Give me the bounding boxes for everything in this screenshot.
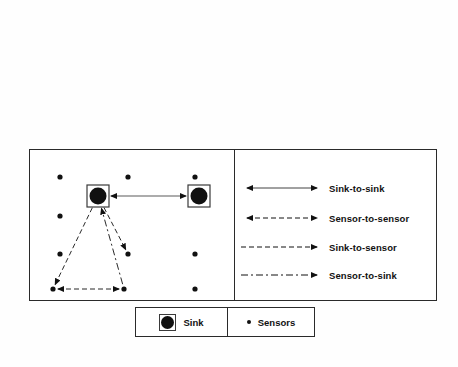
- network-link-sensor-to-sink: [102, 209, 123, 285]
- network-topology-panel: [29, 149, 234, 301]
- sink-node: [87, 185, 109, 207]
- legend-row-sink-to-sink: Sink-to-sink: [235, 175, 437, 201]
- network-link-sink-to-sensor: [55, 208, 92, 285]
- network-sensor-nodes: [50, 174, 197, 291]
- network-topology-svg: [29, 149, 234, 301]
- sensor-node: [125, 174, 130, 179]
- legend-sample-sink-to-sink: [239, 178, 325, 198]
- network-link-sink-to-sensor: [104, 208, 126, 250]
- sink-node-disc: [90, 188, 107, 205]
- legend-sample-sensor-to-sink: [239, 265, 325, 285]
- legend-label-sink-to-sink: Sink-to-sink: [329, 183, 385, 194]
- legend-label-sink-to-sensor: Sink-to-sensor: [329, 242, 397, 253]
- legend-row-sensor-to-sensor: Sensor-to-sensor: [235, 205, 437, 231]
- sensor-node: [192, 251, 197, 256]
- sink-node-disc: [191, 188, 208, 205]
- legend-row-sensor-to-sink: Sensor-to-sink: [235, 262, 437, 288]
- symbol-legend-sensors: Sensors: [228, 308, 314, 336]
- symbol-legend-sink-label: Sink: [183, 317, 203, 328]
- sensor-node: [57, 174, 62, 179]
- symbol-legend-sensors-label: Sensors: [258, 317, 296, 328]
- sink-node: [188, 185, 210, 207]
- legend-sample-sensor-to-sensor: [239, 208, 325, 228]
- legend-label-sensor-to-sensor: Sensor-to-sensor: [329, 213, 409, 224]
- sink-icon: [159, 314, 176, 331]
- network-links: [55, 196, 186, 289]
- sensor-node: [57, 213, 62, 218]
- sensor-node: [57, 251, 62, 256]
- sensor-node: [125, 251, 130, 256]
- symbol-legend-box: Sink Sensors: [135, 307, 315, 337]
- legend-sample-sink-to-sensor: [239, 237, 325, 257]
- link-type-legend-panel: Sink-to-sink Sensor-to-sensor Sink-to-se…: [235, 149, 437, 301]
- figure-root: Sink-to-sink Sensor-to-sensor Sink-to-se…: [0, 0, 458, 367]
- legend-row-sink-to-sensor: Sink-to-sensor: [235, 234, 437, 260]
- sensor-node: [121, 286, 126, 291]
- legend-label-sensor-to-sink: Sensor-to-sink: [329, 270, 397, 281]
- symbol-legend-sink: Sink: [136, 308, 228, 336]
- sensor-node: [192, 174, 197, 179]
- sensor-dot-icon: [247, 320, 251, 324]
- sensor-node: [50, 286, 55, 291]
- sensor-node: [192, 286, 197, 291]
